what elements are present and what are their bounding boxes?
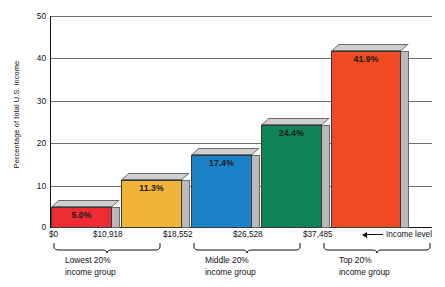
group-label-middle-20: Middle 20% income group (205, 255, 256, 278)
group-label-top-20-line2: income group (339, 267, 390, 279)
x-tick-label-0: $0 (49, 230, 58, 239)
plot-area: 50 40 30 20 10 0 5.0% (51, 16, 432, 228)
bracket-top-20 (323, 243, 431, 253)
group-label-top-20-line1: Top 20% (339, 255, 390, 267)
arrow-left-icon (362, 231, 383, 238)
y-tick-label-40: 40 (37, 54, 46, 62)
bar-value-label-3: 17.4% (191, 158, 252, 168)
bracket-lowest-20 (53, 243, 161, 253)
group-label-middle-20-line2: income group (205, 267, 256, 279)
bar-series: 5.0% 11.3% 17.4% 24.4% (51, 16, 432, 228)
bar-value-label-1: 5.0% (51, 210, 112, 220)
y-tick-label-20: 20 (37, 139, 46, 147)
group-brackets (51, 243, 432, 255)
group-label-top-20: Top 20% income group (339, 255, 390, 278)
bar-front-face-5 (331, 51, 401, 228)
bar-top-face-4 (261, 118, 330, 125)
income-distribution-chart: Percentage of total U.S. income 50 40 30… (0, 0, 445, 287)
bar-side-face-2 (182, 180, 190, 228)
bar-top-face-1 (51, 200, 120, 207)
y-axis-title: Percentage of total U.S. income (12, 15, 21, 215)
y-tick-label-0: 0 (41, 223, 46, 231)
group-label-lowest-20: Lowest 20% income group (65, 255, 116, 278)
x-tick-label-2: $18,552 (163, 230, 193, 239)
group-label-lowest-20-line2: income group (65, 267, 116, 279)
bar-top-face-2 (121, 173, 190, 180)
bar-top-face-3 (191, 148, 260, 155)
x-tick-label-4: $37,485 (303, 230, 333, 239)
bar-side-face-1 (112, 207, 120, 228)
y-tick-label-30: 30 (37, 97, 46, 105)
bar-front-face-4 (261, 125, 322, 228)
bar-value-label-4: 24.4% (261, 128, 322, 138)
group-label-middle-20-line1: Middle 20% (205, 255, 256, 267)
y-tick-label-10: 10 (37, 182, 46, 190)
x-tick-label-3: $26,528 (233, 230, 263, 239)
bar-side-face-4 (322, 125, 330, 228)
bar-value-label-5: 41.9% (331, 54, 401, 64)
bar-top-face-5 (331, 44, 409, 51)
bracket-middle-20 (193, 243, 301, 253)
group-label-lowest-20-line1: Lowest 20% (65, 255, 116, 267)
bar-value-label-2: 11.3% (121, 183, 182, 193)
income-level-annotation: Income level (362, 230, 432, 239)
bar-side-face-3 (252, 155, 260, 228)
x-tick-label-1: $10,918 (93, 230, 123, 239)
bar-side-face-5 (401, 51, 409, 228)
income-level-label: Income level (386, 230, 432, 239)
y-tick-label-50: 50 (37, 12, 46, 20)
group-label-row: Lowest 20% income group Middle 20% incom… (51, 255, 432, 285)
